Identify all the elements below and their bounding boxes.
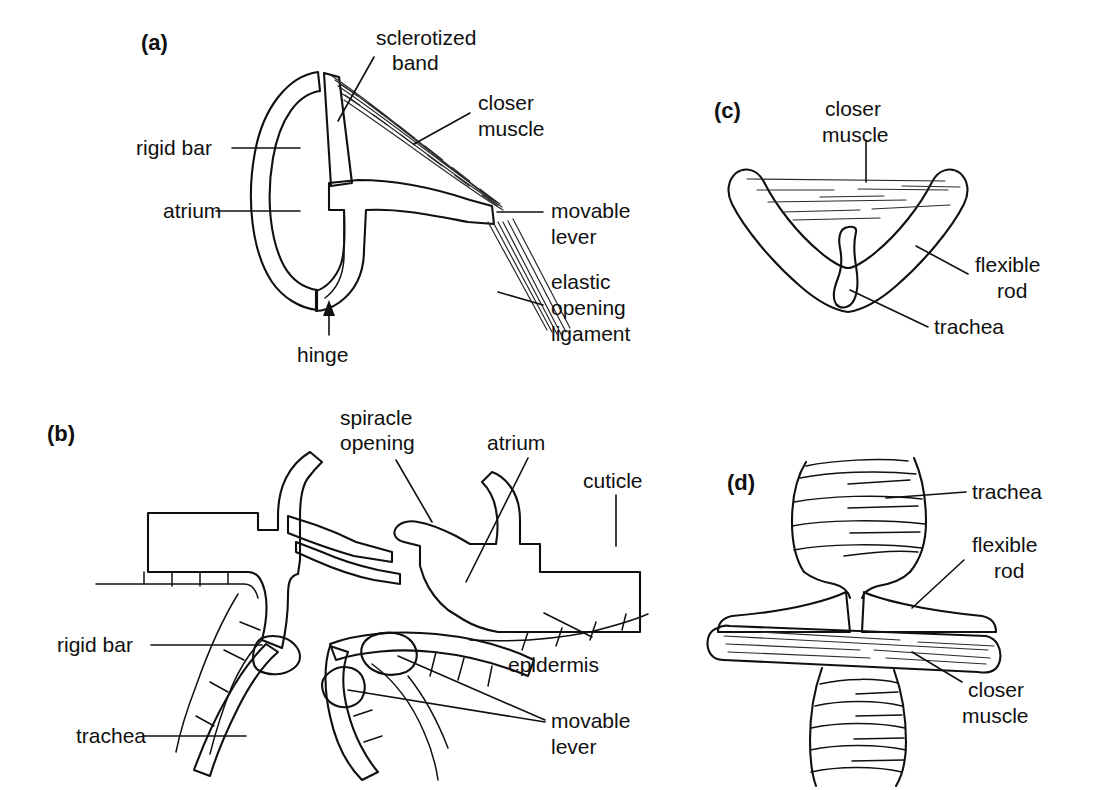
panel-b-label-rigid-bar: rigid bar: [57, 633, 133, 656]
panel-d-letter: (d): [727, 470, 755, 495]
panel-a-label-atrium: atrium: [163, 199, 221, 222]
panel-a-label-closer-muscle-line2: muscle: [478, 117, 545, 140]
panel-b-label-spiracle-opening-line2: opening: [340, 431, 415, 454]
panel-d-label-closer-muscle-line2: muscle: [962, 704, 1029, 727]
panel-d-label-trachea: trachea: [972, 480, 1042, 503]
panel-b-label-spiracle-opening-line1: spiracle: [340, 406, 412, 429]
panel-b-letter: (b): [47, 421, 75, 446]
panel-a-label-sclerotized-band-line2: band: [392, 51, 439, 74]
panel-a-label-hinge: hinge: [297, 343, 348, 366]
panel-a-label-rigid-bar: rigid bar: [136, 136, 212, 159]
panel-c-letter: (c): [714, 98, 741, 123]
panel-b-label-trachea: trachea: [76, 724, 146, 747]
panel-d-label-closer-muscle-line1: closer: [968, 678, 1024, 701]
panel-b-label-epidermis: epidermis: [508, 653, 599, 676]
spiracle-diagram-svg: (a): [0, 0, 1101, 790]
panel-a-label-elastic-line2: opening: [551, 296, 626, 319]
panel-d-label-flexible-rod-line2: rod: [994, 559, 1024, 582]
panel-c-label-flexible-rod-line1: flexible: [975, 253, 1040, 276]
panel-b-label-cuticle: cuticle: [583, 469, 643, 492]
panel-a-label-movable-lever-line1: movable: [551, 199, 630, 222]
panel-b-label-movable-lever-line2: lever: [551, 735, 597, 758]
panel-c-label-flexible-rod-line2: rod: [997, 279, 1027, 302]
panel-a-label-elastic-line3: ligament: [551, 322, 631, 345]
panel-a-label-movable-lever-line2: lever: [551, 225, 597, 248]
panel-a-label-sclerotized-band-line1: sclerotized: [376, 26, 476, 49]
panel-a-label-elastic-line1: elastic: [551, 270, 611, 293]
figure-root: (a): [0, 0, 1101, 790]
panel-a-letter: (a): [141, 30, 168, 55]
panel-b-label-movable-lever-line1: movable: [551, 709, 630, 732]
panel-c-label-closer-muscle-line2: muscle: [822, 123, 889, 146]
panel-c-label-closer-muscle-line1: closer: [825, 97, 881, 120]
panel-d-label-flexible-rod-line1: flexible: [972, 533, 1037, 556]
panel-a-label-closer-muscle-line1: closer: [478, 91, 534, 114]
panel-b-label-atrium: atrium: [487, 431, 545, 454]
panel-c-label-trachea: trachea: [934, 315, 1004, 338]
